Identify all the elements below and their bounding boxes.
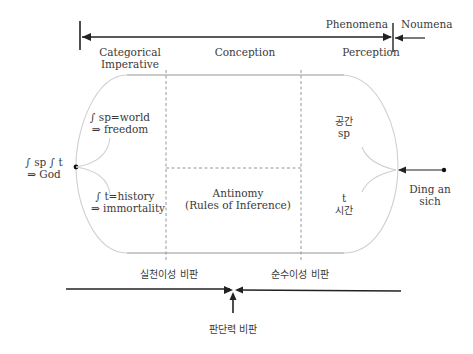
critique-practical-reason-label: 실천이성 비판 <box>140 269 197 280</box>
pure-arrowhead-icon <box>235 287 243 294</box>
right-arc <box>344 75 398 253</box>
practical-arrowhead-icon <box>224 286 233 294</box>
phenomena-label: Phenomena <box>326 18 388 30</box>
perception-label: Perception <box>342 46 400 58</box>
left-arrowhead-icon <box>82 33 91 41</box>
ding-an-sich-label-line1: Ding an <box>409 183 451 195</box>
left-fork <box>74 138 110 194</box>
antinomy-label: Antinomy <box>212 187 264 199</box>
categorical-imperative-label-line2: Imperative <box>101 58 159 70</box>
time-symbol-label: t <box>342 192 347 204</box>
god-label: ⇒ God <box>27 168 61 180</box>
bottom-axis <box>66 286 401 313</box>
freedom-label-text: ⇒ freedom <box>92 123 149 135</box>
mind-capsule <box>76 70 398 262</box>
kant-critique-diagram: Phenomena Noumena Categorical Imperative… <box>0 0 473 354</box>
critique-pure-reason-label: 순수이성 비판 <box>271 269 328 280</box>
space-symbol-label: sp <box>338 127 350 139</box>
judgment-arrowhead-icon <box>230 292 237 300</box>
ding-an-sich-node-dot <box>442 168 446 172</box>
noumena-arrowhead-icon <box>395 35 403 42</box>
world-label: ∫ sp=world <box>90 111 150 123</box>
phenomena-arrowhead-icon <box>383 33 392 41</box>
ding-an-sich-arrowhead-icon <box>398 167 406 174</box>
noumena-label: Noumena <box>401 18 452 30</box>
pure-arrow-line <box>238 290 401 291</box>
immortality-label: ⇒ immortality <box>91 202 165 214</box>
space-korean-label: 공간 <box>335 116 353 127</box>
rules-of-inference-label: (Rules of Inference) <box>185 199 291 211</box>
left-arc <box>76 75 127 253</box>
conception-label: Conception <box>215 46 276 58</box>
time-korean-label: 시간 <box>335 205 353 216</box>
god-integral-label: ∫ sp ∫ t <box>25 156 63 168</box>
categorical-imperative-label-line1: Categorical <box>99 46 161 58</box>
history-label: ∫ t=history <box>96 190 155 202</box>
ding-an-sich-label-line2: sich <box>419 195 441 207</box>
critique-judgment-label: 판단력 비판 <box>209 324 257 335</box>
